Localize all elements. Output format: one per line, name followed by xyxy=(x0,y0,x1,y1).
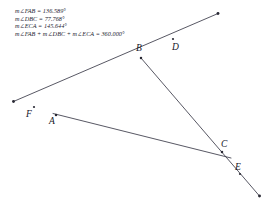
arrowhead-upper-right-endpoint xyxy=(217,12,220,15)
point-marker-A xyxy=(55,114,58,117)
line-through-B-C-E xyxy=(141,58,260,196)
vertex-label-D: D xyxy=(172,43,179,53)
arrowhead-lower-right-endpoint xyxy=(258,195,261,198)
arrowhead-left-endpoint xyxy=(12,100,15,103)
ray-arrowheads xyxy=(12,12,261,197)
vertex-label-B: B xyxy=(136,44,142,54)
vertex-markers xyxy=(33,38,241,175)
triangle-diagram xyxy=(0,0,272,214)
vertex-label-F: F xyxy=(26,110,32,120)
point-marker-D xyxy=(172,38,174,40)
geometry-figure-canvas: m∠FAB = 136.589° m∠DBC = 77.768° m∠ECA =… xyxy=(0,0,272,214)
line-through-F-A-B-D xyxy=(14,14,219,102)
vertex-label-C: C xyxy=(221,140,227,150)
point-marker-B xyxy=(140,57,143,60)
vertex-label-A: A xyxy=(49,117,55,127)
point-marker-F xyxy=(33,106,35,108)
line-through-A-C xyxy=(53,114,231,159)
point-marker-C xyxy=(221,151,224,154)
point-marker-E xyxy=(239,173,241,175)
vertex-label-E: E xyxy=(235,163,241,173)
